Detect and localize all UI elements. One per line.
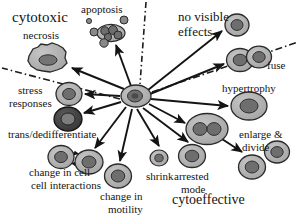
arrow-to-necrosis	[72, 68, 124, 89]
arrow-to-motility	[120, 109, 132, 161]
nucleus-right	[207, 123, 221, 136]
arrow-to-trans-dediff	[84, 102, 121, 113]
fuse-cell-pair	[227, 46, 272, 71]
arrow-to-hypertrophy	[151, 99, 228, 106]
label-shrink: shrink	[146, 171, 174, 182]
apoptotic-fragment	[90, 28, 98, 36]
arrested-mode-cell	[179, 145, 206, 168]
label-change-in-motility-line1: change in	[100, 191, 142, 202]
apoptotic-fragment	[100, 39, 108, 47]
daughter-cell-lower	[239, 155, 266, 179]
arrow-to-apoptosis	[116, 45, 131, 86]
apoptotic-body	[114, 31, 122, 39]
divider-vertical-top	[140, 2, 146, 84]
label-fuse: fuse	[267, 60, 285, 71]
motility-cell	[105, 164, 132, 188]
hypertrophy-cell	[231, 92, 267, 120]
label-change-in-cell-cell-interactions-line1: change in cell-	[29, 167, 94, 178]
label-trans-dedifferentiate: trans/dedifferentiate	[8, 129, 96, 140]
cell-response-diagram: cytotoxic no visible effects cytoeffecti…	[0, 0, 303, 219]
label-change-in-motility-line2: motility	[108, 204, 143, 215]
label-stress-responses-line1: stress	[18, 85, 42, 96]
necrosis-nucleus	[39, 55, 57, 65]
nucleus-left	[193, 123, 207, 136]
label-no-visible-effects-line1: no visible	[178, 10, 229, 23]
arrow-to-shrink	[137, 109, 159, 146]
necrosis-cell	[28, 43, 67, 72]
label-enlarge-divide-line2: divide	[242, 142, 270, 153]
label-change-in-cell-cell-interactions-line2: cell interactions	[31, 180, 101, 191]
stress-response-cell	[56, 83, 82, 106]
central-cell	[121, 85, 151, 107]
label-cytotoxic: cytotoxic	[12, 10, 68, 25]
apoptotic-fragment	[86, 18, 91, 23]
apoptosis-cluster	[86, 16, 128, 47]
arrow-to-stress	[85, 94, 120, 96]
shrink-cell	[150, 150, 168, 166]
arrow-divide-to-daughters	[222, 139, 242, 152]
arrow-to-enlarge-divide	[149, 104, 185, 123]
label-apoptosis: apoptosis	[81, 4, 123, 15]
label-no-visible-effects-line2: effects	[178, 25, 212, 38]
enlarge-divide-cell	[186, 114, 228, 145]
label-arrested-mode-line1: arrested	[174, 171, 209, 182]
label-stress-responses-line2: responses	[9, 98, 52, 109]
apoptotic-fragment	[120, 16, 128, 24]
label-hypertrophy: hypertrophy	[222, 83, 276, 94]
arrow-to-interactions	[95, 107, 126, 148]
label-enlarge-divide-line1: enlarge &	[239, 129, 282, 140]
label-arrested-mode-line2: mode	[181, 184, 205, 195]
label-necrosis: necrosis	[23, 30, 59, 41]
